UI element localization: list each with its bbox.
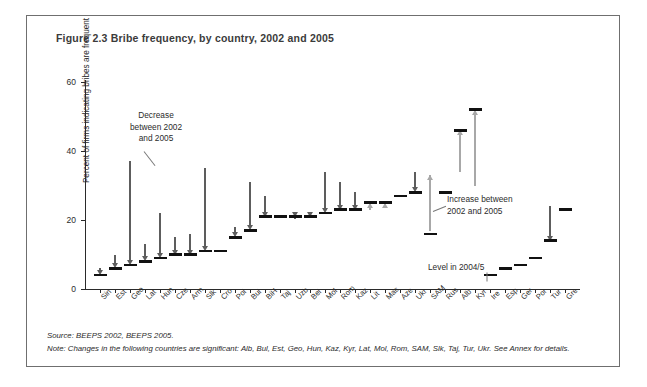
annotation-increase-line1: Increase between [447, 194, 567, 206]
level-2004-5-tick [229, 236, 242, 239]
level-2004-5-tick [544, 239, 557, 242]
change-arrow-shaft [339, 182, 341, 207]
level-2004-5-tick [469, 108, 482, 111]
level-2004-5-tick [454, 129, 467, 132]
figure-page: Figure 2.3 Bribe frequency, by country, … [0, 0, 647, 387]
level-2004-5-tick [409, 191, 422, 194]
change-arrow-shaft [324, 172, 326, 210]
y-axis-tick [81, 289, 85, 290]
level-2004-5-tick [94, 274, 107, 277]
annotation-level: Level in 2004/5 [428, 262, 484, 274]
level-2004-5-tick [514, 264, 527, 267]
level-2004-5-tick [529, 257, 542, 260]
level-2004-5-tick [379, 201, 392, 204]
level-2004-5-tick [394, 195, 407, 198]
level-2004-5-tick [274, 215, 287, 218]
change-arrow-shaft [459, 130, 461, 172]
level-2004-5-tick [499, 267, 512, 270]
y-axis-title: Percent of firms indicating bribes are f… [82, 0, 91, 211]
change-arrow-shaft [474, 110, 476, 186]
level-2004-5-tick [304, 215, 317, 218]
level-2004-5-tick [319, 212, 332, 215]
annotation-decrease-line2: between 2002 [106, 122, 206, 134]
level-2004-5-tick [349, 208, 362, 211]
y-axis-tick-label: 0 [50, 284, 76, 294]
level-2004-5-tick [259, 215, 272, 218]
change-arrow-shaft [429, 175, 431, 231]
level-2004-5-tick [109, 267, 122, 270]
change-arrow-shaft [129, 161, 131, 262]
level-2004-5-tick [154, 257, 167, 260]
annotation-level-leader [487, 273, 488, 282]
figure-note: Note: Changes in the following countries… [47, 344, 570, 353]
annotation-decrease: Decrease between 2002 and 2005 [106, 110, 206, 145]
level-2004-5-tick [169, 253, 182, 256]
change-arrow-head [427, 175, 433, 180]
level-2004-5-tick [124, 264, 137, 267]
change-arrow-shaft [204, 168, 206, 248]
annotation-increase: Increase between 2002 and 2005 [447, 194, 567, 217]
source-note: Source: BEEPS 2002, BEEPS 2005. [47, 331, 174, 340]
level-2004-5-tick [184, 253, 197, 256]
annotation-decrease-line3: and 2005 [106, 133, 206, 145]
y-axis-title-wrap: Percent of firms indicating bribes are f… [0, 0, 60, 240]
annotation-decrease-line1: Decrease [106, 110, 206, 122]
change-arrow-shaft [249, 182, 251, 227]
level-2004-5-tick [424, 233, 437, 236]
change-arrow-shaft [159, 213, 161, 255]
page-title: Figure 2.3 Bribe frequency, by country, … [56, 32, 334, 44]
level-2004-5-tick [214, 250, 227, 253]
level-2004-5-tick [199, 250, 212, 253]
annotation-increase-line2: 2002 and 2005 [447, 206, 567, 218]
level-2004-5-tick [244, 229, 257, 232]
level-2004-5-tick [364, 201, 377, 204]
level-2004-5-tick [139, 260, 152, 263]
level-2004-5-tick [484, 274, 497, 277]
y-axis-tick [81, 220, 85, 221]
level-2004-5-tick [334, 208, 347, 211]
level-2004-5-tick [289, 215, 302, 218]
